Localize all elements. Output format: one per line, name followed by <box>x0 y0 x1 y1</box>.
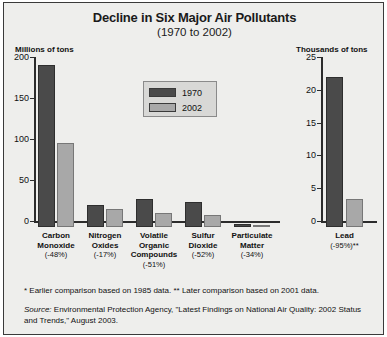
lead-y-tick <box>317 188 321 189</box>
category-label: VolatileOrganicCompounds(-51%) <box>126 231 182 269</box>
bar-1970 <box>234 224 251 227</box>
bar-group <box>326 63 363 227</box>
bar-group <box>234 63 270 227</box>
category-label: CarbonMonoxide(-48%) <box>28 231 84 260</box>
bar-1970 <box>185 202 202 227</box>
lead-y-tick-label: 5 <box>285 183 316 193</box>
lead-y-tick <box>317 155 321 156</box>
legend-swatch-2002 <box>149 103 176 112</box>
bar-2002 <box>346 199 363 227</box>
bar-group <box>38 63 74 227</box>
chart-title: Decline in Six Major Air Pollutants <box>4 10 385 25</box>
bar-1970 <box>87 205 104 227</box>
main-y-tick-label: 200 <box>0 52 29 62</box>
lead-y-tick-label: 15 <box>285 118 316 128</box>
legend-swatch-1970 <box>149 88 176 97</box>
legend-item-2002: 2002 <box>149 101 211 114</box>
legend-label-1970: 1970 <box>182 88 202 98</box>
footnote-source: Source: Environmental Protection Agency,… <box>24 304 374 326</box>
main-y-tick <box>30 57 34 58</box>
lead-y-tick-label: 25 <box>285 52 316 62</box>
bar-2002 <box>57 143 74 227</box>
bar-group <box>87 63 123 227</box>
chart-subtitle: (1970 to 2002) <box>4 26 385 38</box>
bar-1970 <box>326 77 343 227</box>
main-y-tick-label: 100 <box>0 134 29 144</box>
lead-y-tick-label: 10 <box>285 150 316 160</box>
category-label: SulfurDioxide(-52%) <box>175 231 231 260</box>
bar-1970 <box>136 199 153 227</box>
main-y-tick-label: 0 <box>0 216 29 226</box>
main-y-tick <box>30 180 34 181</box>
lead-y-tick-label: 0 <box>285 216 316 226</box>
category-label: Lead(-95%)** <box>315 231 375 250</box>
chart-figure: Decline in Six Major Air Pollutants (197… <box>3 2 384 335</box>
legend-item-1970: 1970 <box>149 86 211 99</box>
source-label: Source: <box>24 305 52 314</box>
bar-2002 <box>106 209 123 227</box>
lead-y-tick <box>317 123 321 124</box>
chart-legend: 1970 2002 <box>143 81 217 117</box>
category-label: NitrogenOxides(-17%) <box>77 231 133 260</box>
main-y-tick-label: 50 <box>0 175 29 185</box>
main-y-axis-line <box>34 57 36 221</box>
bar-1970 <box>38 65 55 227</box>
main-y-tick <box>30 98 34 99</box>
lead-y-tick <box>317 90 321 91</box>
lead-plot-panel: 0510152025Lead(-95%)** <box>299 57 377 227</box>
lead-y-tick <box>317 57 321 58</box>
main-y-tick-label: 150 <box>0 93 29 103</box>
lead-y-tick-label: 20 <box>285 85 316 95</box>
source-text: Environmental Protection Agency, "Latest… <box>24 305 361 325</box>
bar-2002 <box>253 225 270 227</box>
legend-label-2002: 2002 <box>182 103 202 113</box>
main-y-tick <box>30 139 34 140</box>
footnote-asterisks: * Earlier comparison based on 1985 data.… <box>24 286 374 295</box>
bar-2002 <box>204 215 221 227</box>
lead-y-axis-line <box>321 57 323 221</box>
bar-2002 <box>155 213 172 227</box>
category-label: ParticulateMatter(-34%) <box>224 231 280 260</box>
